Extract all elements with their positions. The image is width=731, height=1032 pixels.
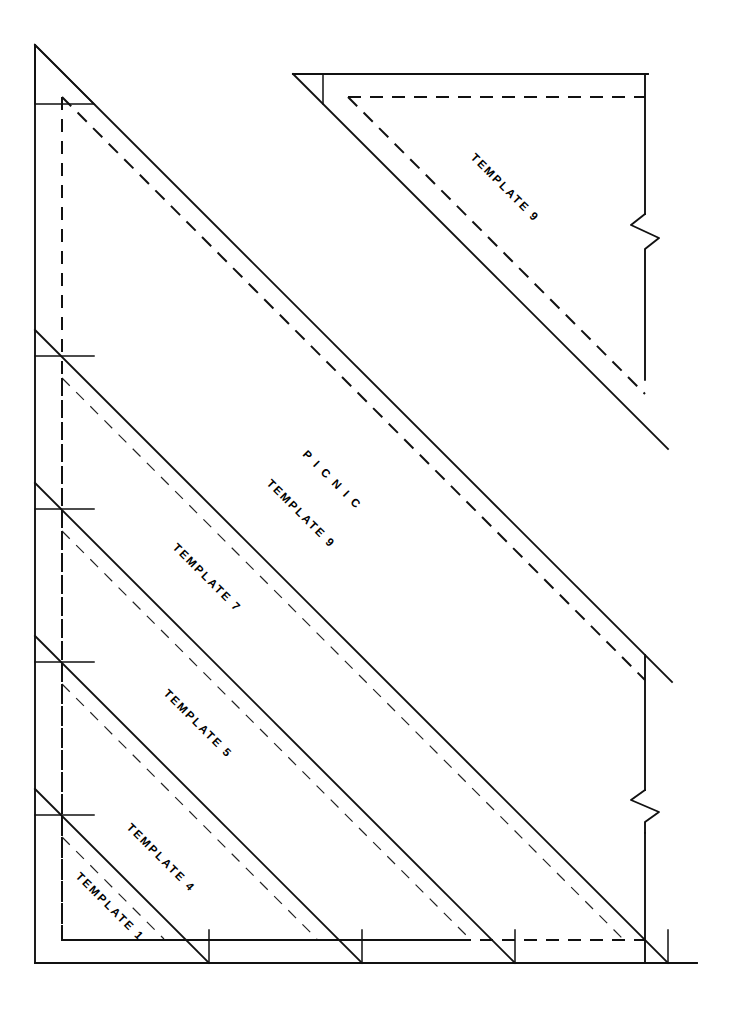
label-template-7: TEMPLATE 7 [171,541,244,614]
template-drawing: TEMPLATE 9 P I C N I C TEMPLATE 9 TEMPLA… [0,0,731,1032]
label-template-9-detached: TEMPLATE 9 [469,151,542,224]
bottom-edge-ticks [209,930,668,963]
template-7-hypotenuse-cut [35,330,668,963]
left-edge-registration-tabs [35,45,94,104]
label-template-5: TEMPLATE 5 [162,687,235,760]
label-template-1: TEMPLATE 1 [74,870,147,943]
template-9-detached-piece [293,74,668,449]
template-labels: TEMPLATE 9 P I C N I C TEMPLATE 9 TEMPLA… [74,151,542,943]
template-9-hypotenuse-seam [62,97,645,680]
drawing-sheet: TEMPLATE 9 P I C N I C TEMPLATE 9 TEMPLA… [0,0,731,1032]
template-9-hypotenuse-cut [35,45,672,682]
label-template-4: TEMPLATE 4 [125,821,198,894]
template-7-shape [35,330,668,963]
break-symbol-lower-icon [631,790,659,833]
template-7-hypotenuse-seam [62,378,623,939]
nested-seam-corners [62,378,471,940]
template-1-shape [35,789,228,963]
template-4-shape [35,636,362,963]
label-picnic-template-9: TEMPLATE 9 [265,477,338,550]
t9-hypotenuse-seam [348,97,645,394]
template-5-hypotenuse-cut [35,483,515,963]
t9-hypotenuse-cut [293,74,668,449]
registration-tab-1 [35,45,94,104]
template-5-shape [35,483,515,963]
template-4-hypotenuse-cut [35,636,362,963]
label-picnic: P I C N I C [301,448,365,512]
break-symbol-upper-icon [631,214,659,380]
template-7-seam-corner [62,378,471,940]
